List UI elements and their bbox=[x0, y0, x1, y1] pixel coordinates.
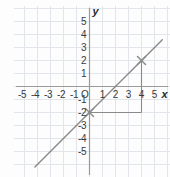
y-tick-label: 2 bbox=[81, 56, 86, 66]
y-tick-label: -5 bbox=[78, 147, 86, 157]
x-tick-label: 4 bbox=[139, 90, 144, 100]
x-tick-label: -5 bbox=[18, 90, 26, 100]
x-axis-label: x bbox=[162, 89, 168, 100]
coordinate-plane-graph: -5-4-3-2-11234554321-1-2-3-4-5O y x bbox=[0, 0, 170, 177]
y-tick-label: -4 bbox=[78, 134, 86, 144]
x-tick-label: -2 bbox=[57, 90, 65, 100]
y-tick-label: 5 bbox=[81, 17, 86, 27]
y-tick-label: -3 bbox=[78, 121, 86, 131]
y-tick-label: -2 bbox=[78, 108, 86, 118]
x-tick-label: 2 bbox=[113, 90, 118, 100]
x-tick-label: 3 bbox=[126, 90, 131, 100]
x-tick-label: -4 bbox=[31, 90, 39, 100]
y-tick-label: 1 bbox=[81, 69, 86, 79]
y-tick-label: 3 bbox=[81, 43, 86, 53]
x-tick-label: 5 bbox=[152, 90, 157, 100]
x-tick-label: 1 bbox=[100, 90, 105, 100]
y-axis-label: y bbox=[93, 6, 99, 17]
x-tick-label: -3 bbox=[44, 90, 52, 100]
origin-label: O bbox=[81, 90, 89, 100]
y-tick-label: 4 bbox=[81, 30, 86, 40]
